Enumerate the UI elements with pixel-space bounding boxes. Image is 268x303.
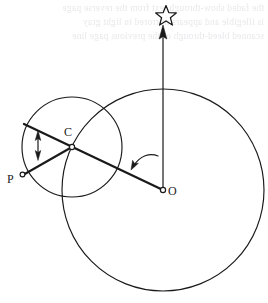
point-marker-C [69, 144, 74, 149]
star-icon [156, 6, 177, 26]
figure-canvas [0, 0, 268, 303]
label-O: O [168, 185, 177, 197]
label-C: C [64, 126, 72, 138]
point-marker-P [20, 172, 25, 177]
label-P: P [7, 173, 14, 185]
chord-line-C-to-P [23, 147, 72, 175]
geometry-figure: the faded show-through text from the rev… [0, 0, 268, 303]
point-marker-O [160, 187, 165, 192]
